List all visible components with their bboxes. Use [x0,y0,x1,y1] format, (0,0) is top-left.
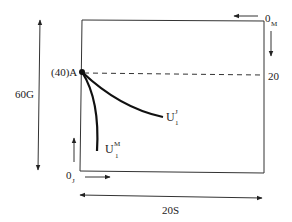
dashed-reference-line [84,73,262,75]
left-axis-label: 60G [15,88,34,100]
curve-u1j [82,72,163,117]
svg-text:U: U [166,110,175,124]
svg-text:U: U [105,142,114,156]
svg-text:1: 1 [115,152,119,160]
svg-text:J: J [175,108,178,116]
svg-text:M: M [114,140,121,148]
origin-m-label: 0 M [265,12,278,28]
right-tick-label: 20 [268,70,280,82]
bottom-dimension-arrow [80,195,262,198]
bottom-axis-label: 20S [162,204,179,216]
edgeworth-box-diagram: (40)A 60G 20S 20 0 J 0 M U J 1 U M 1 [0,0,292,222]
origin-j-label: 0 J [66,169,75,185]
curve-u1j-label: U J 1 [166,108,179,127]
curve-u1m-label: U M 1 [105,140,121,160]
left-dimension-arrow [38,20,40,170]
svg-text:J: J [72,177,75,185]
point-a [79,69,85,75]
svg-text:M: M [271,20,278,28]
point-a-label: (40)A [51,66,77,79]
svg-text:1: 1 [175,119,179,127]
